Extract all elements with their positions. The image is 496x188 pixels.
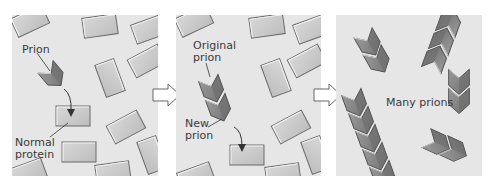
normal-protein-block	[12, 15, 50, 37]
label-original-prion: Original prion	[193, 40, 236, 64]
panel-many-prions: Many prions	[336, 15, 482, 176]
normal-protein-block	[177, 162, 216, 176]
panel-normal-protein-encounter: Prion Normal protein	[12, 15, 158, 176]
normal-protein-block	[127, 44, 158, 78]
normal-protein-block	[131, 15, 158, 44]
normal-protein-block	[176, 15, 214, 37]
normal-protein-block	[137, 136, 158, 175]
label-new-prion: New prion	[185, 118, 213, 142]
label-normal-protein: Normal protein	[15, 137, 55, 161]
normal-protein-block	[287, 44, 321, 78]
normal-protein-block	[95, 59, 125, 98]
normal-protein-block	[265, 163, 301, 176]
normal-protein-block	[271, 110, 310, 144]
prion-chevron	[38, 61, 69, 92]
normal-protein-block	[301, 136, 321, 175]
panel-conversion: Original prion New prion	[176, 15, 321, 176]
normal-protein-block	[293, 15, 321, 44]
normal-protein-block	[82, 15, 118, 38]
normal-protein-block	[249, 15, 285, 38]
normal-protein-block	[95, 161, 131, 176]
new-prion-protein-block	[230, 145, 264, 165]
normal-protein-block	[261, 59, 291, 98]
label-many-prions: Many prions	[386, 97, 453, 109]
label-prion: Prion	[22, 44, 50, 56]
normal-protein-block	[106, 110, 145, 144]
normal-protein-block	[62, 142, 96, 162]
